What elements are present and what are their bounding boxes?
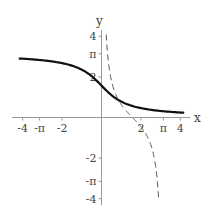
x-axis-label: x bbox=[194, 111, 201, 125]
x-tick-label: -4 bbox=[17, 122, 28, 135]
y-tick-label: π bbox=[89, 48, 96, 61]
y-tick-label: 4 bbox=[90, 30, 97, 43]
x-tick-label: π bbox=[160, 122, 167, 135]
y-tick-label: -4 bbox=[86, 193, 97, 206]
x-tick-label: 2 bbox=[137, 122, 144, 135]
y-tick-label: -π bbox=[86, 175, 97, 188]
y-axis-label: y bbox=[95, 14, 103, 28]
chart: -4-π-22π44π2-2-π-4 x y bbox=[0, 0, 211, 213]
x-tick-label: -π bbox=[34, 122, 45, 135]
x-tick-label: -2 bbox=[57, 122, 68, 135]
x-tick-label: 4 bbox=[177, 122, 184, 135]
y-tick-label: -2 bbox=[86, 152, 97, 165]
